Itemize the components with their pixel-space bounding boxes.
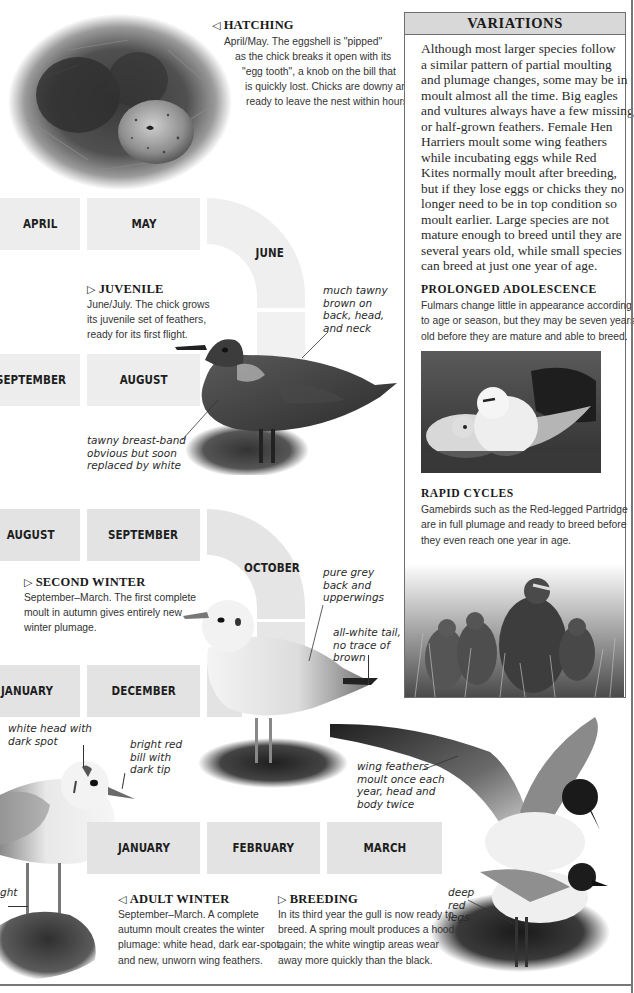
left-triangle-icon: ◁	[212, 19, 221, 32]
second-winter-text: September–March. The first complete moul…	[24, 590, 196, 636]
leader-line	[180, 398, 220, 443]
note-tawny-breast: tawny breast-band obvious but soon repla…	[87, 434, 186, 472]
fulmar-photo	[421, 351, 601, 473]
rapid-cycles-title: RAPID CYCLES	[421, 487, 514, 500]
page-bottom-rule	[0, 984, 632, 986]
month-october: OCTOBER	[237, 553, 307, 583]
note-all-white-tail: all-white tail, no trace of brown	[333, 626, 401, 664]
month-september-cut: SEPTEMBER	[0, 354, 80, 406]
page-right-rule	[631, 0, 633, 993]
leader-line	[368, 655, 369, 685]
note-white-head: white head with dark spot	[8, 722, 92, 747]
variations-body: Although most larger species follow a si…	[421, 41, 621, 274]
breeding-title: ▷BREEDING	[278, 892, 358, 907]
rapid-cycles-text: Gamebirds such as the Red-legged Partrid…	[421, 502, 621, 548]
hatching-nest-photo	[8, 10, 236, 192]
leader-line	[420, 752, 460, 772]
month-january-cut: JANUARY	[0, 665, 80, 717]
note-bright-red-bill: bright red bill with dark tip	[130, 738, 182, 776]
prolonged-adolescence-title: PROLONGED ADOLESCENCE	[421, 283, 597, 296]
left-triangle-icon: ◁	[118, 893, 127, 906]
right-triangle-icon: ▷	[87, 283, 96, 296]
month-january-2: JANUARY	[87, 822, 200, 874]
leader-line	[83, 745, 84, 767]
leader-line	[300, 330, 330, 360]
note-pure-grey-back: pure grey back and upperwings	[323, 566, 384, 604]
note-legs-fragment: ght	[0, 886, 17, 899]
breeding-text: In its third year the gull is now ready …	[278, 907, 454, 968]
right-triangle-icon: ▷	[278, 893, 287, 906]
second-winter-title: ▷SECOND WINTER	[24, 575, 145, 590]
month-june: JUNE	[240, 238, 300, 268]
month-august-2: AUGUST	[0, 509, 80, 561]
partridge-photo	[405, 563, 624, 697]
hatching-title: ◁HATCHING	[212, 18, 294, 33]
leader-line	[8, 906, 28, 907]
month-march: MARCH	[327, 822, 442, 874]
month-february: FEBRUARY	[207, 822, 320, 874]
month-may: MAY	[87, 198, 200, 250]
adult-winter-title: ◁ADULT WINTER	[118, 892, 229, 907]
variations-panel: VARIATIONS Although most larger species …	[404, 12, 626, 698]
prolonged-adolescence-text: Fulmars change little in appearance acco…	[421, 298, 621, 344]
month-april: APRIL	[0, 198, 80, 250]
juvenile-title: ▷JUVENILE	[87, 282, 163, 297]
adult-winter-text: September–March. A complete autumn moult…	[118, 907, 282, 968]
variations-title: VARIATIONS	[405, 13, 625, 35]
leader-line	[466, 898, 516, 928]
leader-line	[305, 603, 325, 663]
note-tawny-back: much tawny brown on back, head, and neck	[323, 284, 388, 334]
month-september-2: SEPTEMBER	[87, 509, 200, 561]
right-triangle-icon: ▷	[24, 576, 33, 589]
